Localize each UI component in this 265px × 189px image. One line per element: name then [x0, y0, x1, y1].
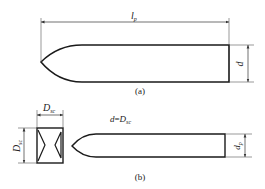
right-chevron-icon: [55, 132, 61, 158]
figure-a: lp d (a): [41, 10, 254, 96]
diagram-canvas: lp d (a) Dsc Dsc d=Dsc: [0, 0, 265, 189]
container-box: [37, 128, 63, 163]
left-chevron-icon: [38, 130, 45, 161]
diameter-label: d: [234, 61, 245, 67]
box-width-label: Dsc: [42, 102, 56, 114]
length-label: lp: [131, 10, 137, 22]
long-bullet-outline: [41, 45, 229, 82]
short-bullet-outline: [72, 134, 225, 157]
box-height-label: Dsc: [11, 140, 23, 154]
caption-a: (a): [135, 86, 145, 96]
caption-b: (b): [135, 172, 146, 182]
figure-b: Dsc Dsc d=Dsc dp (b): [11, 102, 252, 182]
equation-label: d=Dsc: [110, 114, 131, 125]
bullet-diameter-label: dp: [232, 142, 243, 150]
